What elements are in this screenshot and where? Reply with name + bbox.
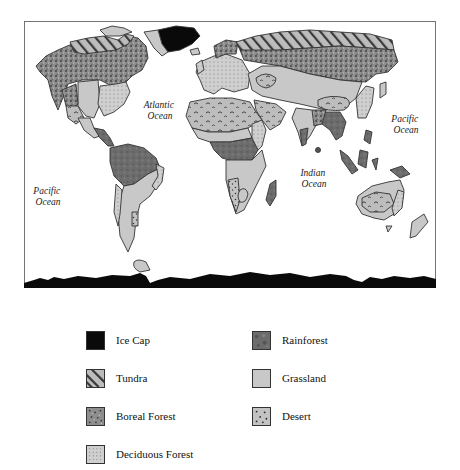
world-biome-map: Atlantic Ocean Pacific Ocean Pacific Oce… — [0, 0, 460, 300]
ocean-label-pacific-west: Pacific Ocean — [32, 186, 62, 207]
desert-swatch-icon — [252, 407, 271, 426]
region-europe-deciduous — [196, 54, 250, 94]
legend-item-rainforest: Rainforest — [252, 330, 328, 350]
boreal-forest-swatch-icon — [86, 407, 105, 426]
legend-label: Boreal Forest — [116, 410, 176, 422]
deciduous-forest-swatch-icon — [86, 445, 105, 464]
legend-label: Ice Cap — [116, 334, 150, 346]
legend-item-boreal-forest: Boreal Forest — [86, 406, 176, 426]
region-tibet-desert — [318, 96, 350, 110]
ocean-label-indian: Indian Ocean — [299, 168, 327, 189]
legend-label: Tundra — [116, 372, 147, 384]
legend-label: Grassland — [282, 372, 326, 384]
region-small-island — [316, 148, 321, 153]
legend-item-grassland: Grassland — [252, 368, 326, 388]
legend-item-ice-cap: Ice Cap — [86, 330, 150, 350]
legend-label: Deciduous Forest — [116, 448, 193, 460]
legend-item-desert: Desert — [252, 406, 311, 426]
ocean-label-atlantic: Atlantic Ocean — [143, 100, 176, 121]
grassland-swatch-icon — [252, 369, 271, 388]
rainforest-swatch-icon — [252, 331, 271, 350]
legend-label: Desert — [282, 410, 311, 422]
region-patagonia-desert — [132, 212, 138, 226]
ice-cap-swatch-icon — [86, 331, 105, 350]
legend-item-deciduous-forest: Deciduous Forest — [86, 444, 193, 464]
ocean-label-pacific-east: Pacific Ocean — [390, 114, 420, 135]
region-sahara-desert — [186, 98, 262, 132]
legend-item-tundra: Tundra — [86, 368, 147, 388]
legend-label: Rainforest — [282, 334, 328, 346]
tundra-swatch-icon — [86, 369, 105, 388]
